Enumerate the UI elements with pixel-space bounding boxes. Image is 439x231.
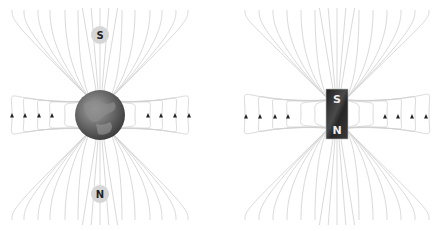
earth-south-pole-label: S bbox=[91, 26, 109, 44]
earth-north-pole-label: N bbox=[91, 185, 109, 203]
magnet-north-label: N bbox=[332, 124, 341, 137]
bar-magnet-field-diagram: S N bbox=[244, 8, 430, 225]
arrow-up-icon bbox=[424, 114, 428, 119]
earth-field-diagram: S N bbox=[10, 8, 191, 225]
magnetic-field-diagrams: S N S N bbox=[0, 0, 439, 231]
arrow-up-icon bbox=[10, 113, 14, 118]
arrow-up-icon bbox=[383, 114, 387, 119]
earth-globe bbox=[75, 90, 125, 140]
south-label: S bbox=[96, 30, 103, 41]
north-label: N bbox=[96, 189, 104, 200]
magnet-south-label: S bbox=[333, 93, 341, 106]
arrow-up-icon bbox=[146, 113, 150, 118]
arrow-up-icon bbox=[187, 113, 191, 118]
arrow-up-icon bbox=[273, 114, 277, 119]
arrow-up-icon bbox=[396, 114, 400, 119]
bar-magnet: S N bbox=[326, 89, 348, 139]
arrow-up-icon bbox=[50, 113, 54, 118]
arrow-up-icon bbox=[410, 114, 414, 119]
